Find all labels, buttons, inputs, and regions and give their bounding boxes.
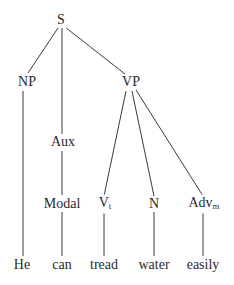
leaf-tread: tread: [89, 257, 119, 273]
node-advm-label: Adv: [188, 195, 212, 210]
node-modal: Modal: [43, 196, 82, 212]
node-vp: VP: [121, 74, 141, 90]
node-advm-subscript: m: [213, 201, 220, 211]
edge-s-np: [28, 28, 58, 73]
leaf-can: can: [51, 257, 72, 273]
leaf-easily: easily: [186, 257, 221, 273]
node-n: N: [148, 196, 160, 212]
leaf-he: He: [13, 257, 31, 273]
edge-vp-n: [132, 91, 154, 196]
node-vt-subscript: t: [109, 201, 112, 211]
node-aux: Aux: [50, 134, 76, 150]
node-s: S: [56, 12, 66, 28]
edge-vp-vt: [104, 91, 126, 196]
node-vt-label: V: [99, 195, 109, 210]
edge-vp-advm: [136, 90, 203, 196]
node-vt: Vt: [98, 195, 113, 214]
node-advm: Advm: [187, 195, 220, 214]
leaf-water: water: [137, 257, 170, 273]
node-np: NP: [17, 74, 37, 90]
edge-s-vp: [65, 27, 125, 74]
tree-edges: [0, 0, 234, 285]
